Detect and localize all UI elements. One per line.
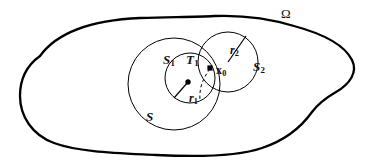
label-omega: Ω [281,7,291,20]
label-r2-subscript: 2 [235,49,239,58]
label-x0-subscript: 0 [222,69,226,78]
label-x0: x0 [216,64,226,78]
label-T1-base: T [186,52,194,67]
figure-canvas: Ω S1 T1 x0 S2 r2 r1 S [0,0,373,166]
label-r1: r1 [189,92,198,106]
label-r2: r2 [230,44,239,58]
label-r2-base: r [230,43,235,57]
label-T1-subscript: 1 [194,58,198,68]
inner-center-dot [185,79,190,84]
label-S1-subscript: 1 [170,58,174,68]
point-x0-marker [207,65,212,70]
label-S: S [146,110,153,123]
omega-domain-boundary [20,16,354,156]
label-S1: S1 [163,53,175,68]
label-r1-base: r [189,91,194,105]
label-S2-subscript: 2 [260,65,264,75]
diagram-svg [0,0,373,166]
label-r1-subscript: 1 [194,97,198,106]
label-S2: S2 [253,60,265,75]
label-T1: T1 [186,53,199,68]
